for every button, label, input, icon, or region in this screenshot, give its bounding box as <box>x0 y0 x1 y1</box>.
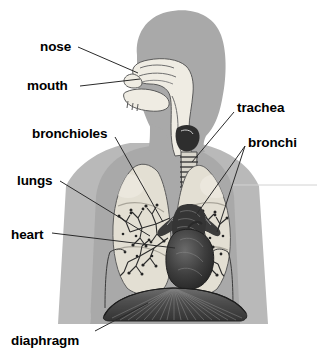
label-bronchi: bronchi <box>248 136 297 150</box>
label-heart: heart <box>11 228 44 242</box>
respiratory-system-diagram: nose mouth bronchioles lungs heart trach… <box>0 0 317 354</box>
label-lungs: lungs <box>17 174 53 188</box>
label-diaphragm: diaphragm <box>11 334 79 348</box>
label-bronchioles: bronchioles <box>32 127 107 141</box>
label-trachea: trachea <box>237 101 284 115</box>
label-nose: nose <box>40 40 71 54</box>
label-mouth: mouth <box>27 79 68 93</box>
